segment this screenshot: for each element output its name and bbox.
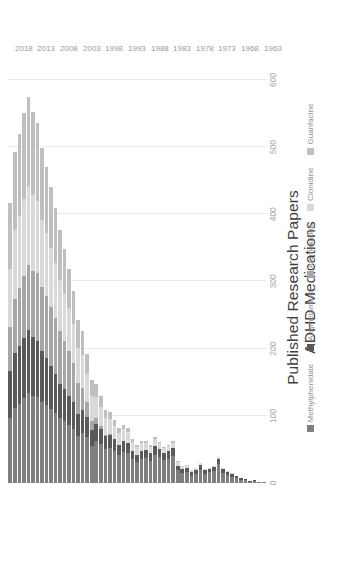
bar-segment[interactable] <box>153 437 157 439</box>
bar-segment[interactable] <box>85 354 89 374</box>
bar-segment[interactable] <box>203 470 207 473</box>
bar-segment[interactable] <box>99 407 103 426</box>
bar-segment[interactable] <box>212 471 216 483</box>
bar-segment[interactable] <box>18 134 22 216</box>
bar-segment[interactable] <box>99 429 103 444</box>
bar-segment[interactable] <box>235 478 239 483</box>
bar-segment[interactable] <box>81 410 85 433</box>
bar-segment[interactable] <box>63 341 67 389</box>
bar-segment[interactable] <box>221 468 225 469</box>
bar-segment[interactable] <box>104 419 108 435</box>
bar-row[interactable] <box>257 482 261 483</box>
bar-row[interactable] <box>113 420 117 483</box>
bar-segment[interactable] <box>162 460 166 483</box>
bar-segment[interactable] <box>67 308 71 351</box>
bar-segment[interactable] <box>126 432 130 443</box>
bar-row[interactable] <box>190 470 194 483</box>
bar-segment[interactable] <box>217 457 221 458</box>
bar-segment[interactable] <box>117 428 121 433</box>
bar-row[interactable] <box>226 471 230 483</box>
bar-segment[interactable] <box>226 475 230 483</box>
bar-row[interactable] <box>235 476 239 483</box>
bar-segment[interactable] <box>31 112 35 195</box>
bar-row[interactable] <box>27 97 31 483</box>
bar-segment[interactable] <box>203 469 207 470</box>
bar-row[interactable] <box>49 187 53 483</box>
bar-segment[interactable] <box>117 455 121 483</box>
bar-row[interactable] <box>31 112 35 483</box>
bar-row[interactable] <box>94 384 98 483</box>
legend-item-methylphenidate[interactable]: Methylphenidate <box>306 364 315 433</box>
bar-segment[interactable] <box>122 429 126 440</box>
bar-segment[interactable] <box>45 167 49 233</box>
bar-row[interactable] <box>203 469 207 483</box>
bar-segment[interactable] <box>144 458 148 483</box>
bar-row[interactable] <box>122 425 126 483</box>
bar-segment[interactable] <box>36 341 40 397</box>
bar-segment[interactable] <box>90 430 94 446</box>
bar-segment[interactable] <box>244 480 248 483</box>
bar-segment[interactable] <box>212 467 216 471</box>
bar-segment[interactable] <box>18 346 22 404</box>
bar-segment[interactable] <box>239 478 243 479</box>
bar-segment[interactable] <box>49 307 53 366</box>
bar-row[interactable] <box>176 462 180 484</box>
bar-segment[interactable] <box>194 470 198 474</box>
bar-segment[interactable] <box>162 447 166 448</box>
bar-row[interactable] <box>248 481 252 483</box>
bar-row[interactable] <box>81 331 85 483</box>
bar-segment[interactable] <box>140 459 144 483</box>
bar-segment[interactable] <box>8 269 12 327</box>
bar-segment[interactable] <box>122 452 126 483</box>
bar-row[interactable] <box>36 123 40 483</box>
bar-segment[interactable] <box>113 451 117 483</box>
bar-segment[interactable] <box>180 466 184 469</box>
bar-segment[interactable] <box>203 474 207 483</box>
bar-row[interactable] <box>212 466 216 483</box>
bar-segment[interactable] <box>212 466 216 467</box>
bar-segment[interactable] <box>99 396 103 407</box>
bar-row[interactable] <box>22 113 26 483</box>
bar-row[interactable] <box>90 380 94 483</box>
bar-segment[interactable] <box>158 449 162 457</box>
bar-segment[interactable] <box>22 338 26 398</box>
bar-segment[interactable] <box>27 97 31 186</box>
bar-row[interactable] <box>63 249 67 483</box>
bar-segment[interactable] <box>54 208 58 263</box>
bar-segment[interactable] <box>58 331 62 383</box>
bar-segment[interactable] <box>262 482 266 483</box>
bar-segment[interactable] <box>226 471 230 472</box>
bar-segment[interactable] <box>226 472 230 475</box>
bar-segment[interactable] <box>158 443 162 449</box>
bar-segment[interactable] <box>36 273 40 340</box>
bar-row[interactable] <box>40 148 44 483</box>
bar-segment[interactable] <box>117 433 121 445</box>
bar-segment[interactable] <box>176 466 180 471</box>
bar-segment[interactable] <box>176 462 180 463</box>
bar-segment[interactable] <box>18 288 22 346</box>
bar-row[interactable] <box>67 269 71 483</box>
bar-segment[interactable] <box>108 435 112 448</box>
bar-segment[interactable] <box>40 148 44 219</box>
bar-segment[interactable] <box>49 409 53 483</box>
bar-row[interactable] <box>167 445 171 483</box>
bar-row[interactable] <box>262 482 266 483</box>
bar-segment[interactable] <box>94 441 98 483</box>
bar-segment[interactable] <box>140 443 144 451</box>
bar-segment[interactable] <box>217 464 221 483</box>
bar-segment[interactable] <box>81 388 85 411</box>
bar-segment[interactable] <box>149 461 153 483</box>
bar-segment[interactable] <box>81 331 85 355</box>
bar-row[interactable] <box>85 354 89 483</box>
bar-segment[interactable] <box>149 447 153 454</box>
bar-row[interactable] <box>13 152 17 483</box>
bar-segment[interactable] <box>36 123 40 201</box>
bar-segment[interactable] <box>104 436 108 449</box>
bar-segment[interactable] <box>171 448 175 456</box>
bar-row[interactable] <box>221 468 225 483</box>
bar-segment[interactable] <box>40 287 44 352</box>
bar-segment[interactable] <box>190 476 194 483</box>
bar-segment[interactable] <box>94 419 98 424</box>
bar-segment[interactable] <box>171 443 175 448</box>
bar-row[interactable] <box>108 412 112 483</box>
